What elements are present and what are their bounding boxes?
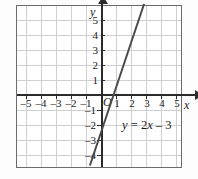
- graph-screenshot: –5 –4 –3 –2 –1 1 2 3 4 5 5 4 3 2 1 –1 –2…: [0, 0, 198, 179]
- equation-constant: 3: [165, 118, 171, 132]
- equation-annotation: y = 2x – 3: [122, 119, 171, 132]
- x-axis-arrow-icon: [195, 90, 198, 100]
- equation-equals: =: [131, 118, 138, 132]
- y-axis-arrow-icon: [98, 0, 108, 4]
- line-y-equals-2x-minus-3: [90, 4, 144, 165]
- coordinate-plane: –5 –4 –3 –2 –1 1 2 3 4 5 5 4 3 2 1 –1 –2…: [16, 5, 182, 168]
- line-graph: [17, 6, 181, 167]
- x-axis-label: x: [184, 99, 189, 111]
